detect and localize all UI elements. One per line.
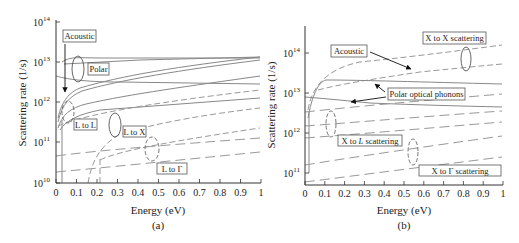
annotation-l-to-gamma: L to Γ (157, 163, 187, 174)
svg-text:1013: 1013 (33, 55, 51, 68)
svg-text:0.5: 0.5 (152, 187, 165, 198)
svg-text:0.8: 0.8 (214, 187, 227, 198)
annotation-polar-b: Polar optical phonons (351, 84, 465, 102)
panel-b-x-label: Energy (eV) (377, 204, 432, 217)
polar-ellipse (72, 56, 84, 82)
panel-a-caption: (a) (152, 219, 165, 232)
panel-a: 0 0.1 0.2 0.3 0.4 0.5 0.6 0.7 0.8 0.9 1 … (16, 15, 264, 232)
svg-text:X to X scattering: X to X scattering (425, 33, 484, 43)
svg-text:1012: 1012 (33, 95, 51, 108)
svg-text:0.1: 0.1 (70, 187, 83, 198)
panel-b-y-label: Scattering rate (1/s) (265, 61, 278, 148)
arrow-icon (351, 97, 386, 102)
x-to-x-curve-2 (318, 64, 502, 90)
annotation-x-to-x: X to X scattering (423, 32, 486, 44)
panel-a-y-label: Scattering rate (1/s) (16, 59, 29, 146)
panel-b-x-ticks: 0 0.1 0.2 0.3 0.4 0.5 0.6 0.7 0.8 0.9 1 (303, 181, 506, 199)
svg-text:X to Γ scattering: X to Γ scattering (431, 166, 489, 176)
svg-text:0.3: 0.3 (358, 188, 371, 199)
svg-text:L to Γ: L to Γ (162, 164, 183, 174)
annotation-polar-a: Polar (88, 63, 109, 75)
svg-text:1011: 1011 (33, 135, 50, 148)
svg-text:0.7: 0.7 (437, 188, 450, 199)
svg-text:1011: 1011 (283, 166, 300, 179)
l-to-x-ellipse (109, 113, 121, 137)
l-to-gamma-curve-1 (56, 138, 260, 156)
x-to-l-curve-3 (305, 122, 502, 138)
svg-text:0.1: 0.1 (319, 188, 332, 199)
svg-text:0.2: 0.2 (338, 188, 351, 199)
svg-text:1010: 1010 (33, 176, 51, 189)
annotation-x-to-l: X to L scattering (338, 135, 402, 146)
figure: 0 0.1 0.2 0.3 0.4 0.5 0.6 0.7 0.8 0.9 1 … (0, 0, 519, 243)
x-to-l-curve-2 (305, 111, 502, 126)
svg-text:0: 0 (54, 187, 59, 198)
annotation-l-to-x: L to X (123, 126, 146, 137)
svg-text:0.8: 0.8 (457, 188, 470, 199)
svg-text:Acoustic: Acoustic (334, 46, 364, 56)
panel-b: 0 0.1 0.2 0.3 0.4 0.5 0.6 0.7 0.8 0.9 1 … (265, 26, 506, 232)
svg-text:1012: 1012 (283, 126, 301, 139)
svg-text:0.9: 0.9 (477, 188, 490, 199)
svg-text:0.9: 0.9 (234, 187, 247, 198)
svg-text:0.7: 0.7 (193, 187, 206, 198)
svg-text:1014: 1014 (33, 15, 51, 28)
svg-text:0.4: 0.4 (378, 188, 391, 199)
svg-text:1014: 1014 (283, 46, 301, 59)
svg-text:1013: 1013 (283, 86, 301, 99)
svg-text:1: 1 (501, 188, 506, 199)
svg-text:0.3: 0.3 (111, 187, 124, 198)
panel-a-x-label: Energy (eV) (131, 204, 186, 217)
svg-text:Acoustic: Acoustic (64, 31, 94, 41)
x-to-gamma-ellipse (408, 139, 418, 165)
annotation-acoustic-b: Acoustic (331, 45, 411, 69)
l-to-gamma-ellipse (145, 137, 159, 161)
svg-text:Polar optical phonons: Polar optical phonons (389, 89, 463, 99)
svg-text:L to L: L to L (75, 120, 96, 130)
svg-text:0.6: 0.6 (173, 187, 186, 198)
svg-text:0: 0 (303, 188, 308, 199)
annotation-x-to-gamma: X to Γ scattering (419, 165, 501, 176)
svg-text:0.6: 0.6 (418, 188, 431, 199)
arrow-icon (375, 84, 385, 92)
svg-text:L to X: L to X (124, 127, 146, 137)
svg-text:1: 1 (259, 187, 264, 198)
svg-text:0.4: 0.4 (132, 187, 145, 198)
svg-text:Polar: Polar (90, 64, 108, 74)
annotation-acoustic-a: Acoustic (63, 30, 96, 92)
panel-b-caption: (b) (398, 219, 411, 232)
svg-text:0.2: 0.2 (91, 187, 104, 198)
svg-text:X to L scattering: X to L scattering (342, 136, 400, 146)
annotation-l-to-l: L to L (74, 119, 97, 130)
svg-text:0.5: 0.5 (398, 188, 411, 199)
panel-a-x-ticks: 0 0.1 0.2 0.3 0.4 0.5 0.6 0.7 0.8 0.9 1 (54, 179, 264, 198)
